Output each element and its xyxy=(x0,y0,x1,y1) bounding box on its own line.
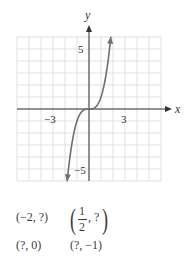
fraction-denominator: 2 xyxy=(79,220,85,235)
point-question-1: (−2, ?) xyxy=(16,210,48,225)
tick-label-x-neg3: −3 xyxy=(44,113,56,125)
y-axis-label: y xyxy=(84,8,91,22)
tick-label-x-3: 3 xyxy=(121,113,127,125)
point-question-3: (?, 0) xyxy=(16,238,41,253)
point-question-4: (?, −1) xyxy=(70,238,102,253)
tick-label-y-neg5: −5 xyxy=(74,164,86,176)
cubic-function-graph: x y −3 3 5 −5 xyxy=(0,0,186,200)
tick-label-y-5: 5 xyxy=(78,43,84,55)
point-question-2-rest: , ? xyxy=(88,210,99,225)
left-paren: ( xyxy=(70,204,76,234)
right-paren: ) xyxy=(102,204,108,234)
y-axis-arrow-icon xyxy=(86,25,92,32)
fraction-numerator: 1 xyxy=(79,204,85,219)
x-axis-arrow-icon xyxy=(165,106,172,112)
x-axis-label: x xyxy=(174,102,181,116)
point-question-2: ( 1 2 , ? ) xyxy=(70,200,120,240)
